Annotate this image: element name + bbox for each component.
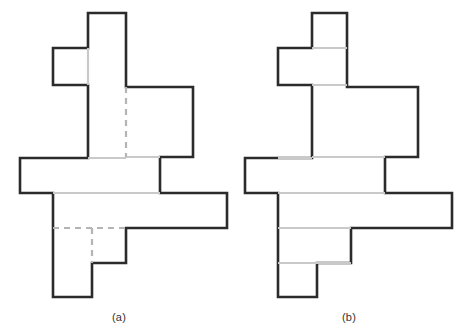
- figure-a-caption: (a): [89, 311, 149, 323]
- polyomino-figures-svg: [0, 0, 467, 333]
- figure-b-caption: (b): [319, 311, 379, 323]
- figure-board: [0, 0, 467, 333]
